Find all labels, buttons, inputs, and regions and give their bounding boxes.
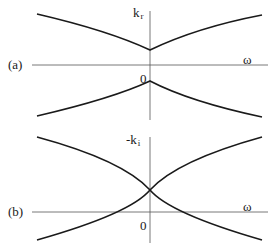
- panel-b-y-subscript: i: [138, 138, 141, 148]
- panel-a-label: (a): [8, 58, 22, 71]
- panel-a-y-symbol: k: [133, 5, 140, 20]
- panel-b-origin-label: 0: [140, 219, 147, 232]
- panel-b-descending-branch: [37, 137, 262, 240]
- panel-a-y-axis-label: kr: [133, 6, 144, 19]
- dispersion-diagram: [0, 0, 275, 252]
- panel-b-label: (b): [8, 205, 23, 218]
- panel-b-y-axis-label: -ki: [126, 133, 140, 146]
- panel-a-lower-branch: [37, 81, 262, 117]
- panel-b-x-axis-label: ω: [243, 200, 252, 213]
- panel-a-y-subscript: r: [141, 11, 144, 21]
- panel-a-origin-label: 0: [140, 72, 147, 85]
- panel-a-x-axis-label: ω: [243, 53, 252, 66]
- panel-a-upper-branch: [37, 14, 262, 50]
- panel-b-y-symbol: -k: [126, 132, 137, 147]
